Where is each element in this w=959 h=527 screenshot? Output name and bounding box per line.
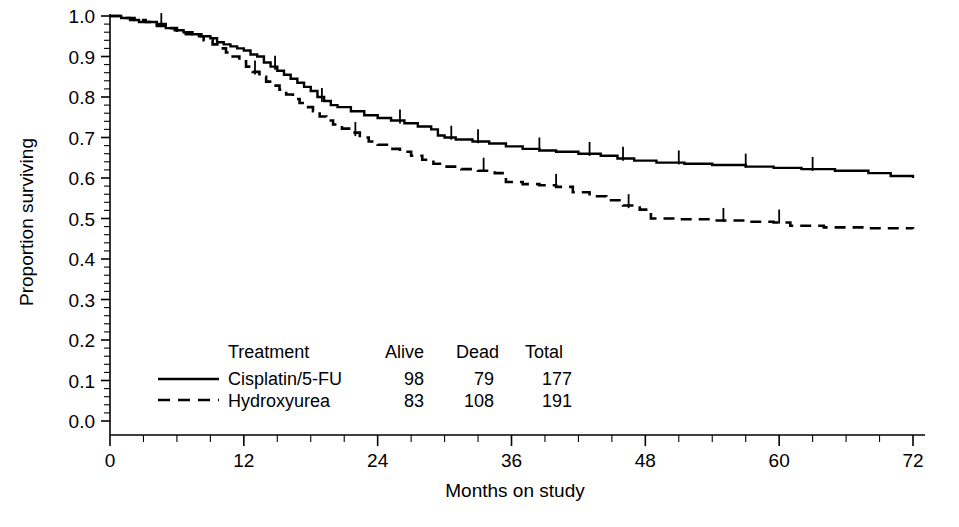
y-tick-label: 0.5 bbox=[69, 209, 95, 230]
x-tick-label: 24 bbox=[367, 450, 389, 471]
x-tick-label: 12 bbox=[233, 450, 254, 471]
y-axis-title: Proportion surviving bbox=[16, 138, 37, 306]
chart-background bbox=[0, 0, 959, 527]
x-tick-label: 72 bbox=[902, 450, 923, 471]
y-tick-label: 0.9 bbox=[69, 47, 95, 68]
legend-row-0-dead: 79 bbox=[474, 369, 494, 389]
y-tick-label: 0.7 bbox=[69, 128, 95, 149]
x-tick-label: 60 bbox=[769, 450, 790, 471]
y-tick-label: 0.2 bbox=[69, 330, 95, 351]
legend-row-0-alive: 98 bbox=[404, 369, 424, 389]
x-axis-title: Months on study bbox=[445, 480, 585, 501]
survival-plot-svg: 0.00.10.20.30.40.50.60.70.80.91.0 012243… bbox=[0, 0, 959, 527]
y-tick-label: 0.4 bbox=[69, 249, 96, 270]
legend-row-1-total: 191 bbox=[542, 391, 572, 411]
legend-header-treatment: Treatment bbox=[228, 342, 309, 362]
x-tick-label: 0 bbox=[105, 450, 116, 471]
legend-header-dead: Dead bbox=[456, 342, 499, 362]
legend-row-0-treatment: Cisplatin/5-FU bbox=[228, 369, 342, 389]
x-tick-label: 36 bbox=[501, 450, 522, 471]
kaplan-meier-chart: 0.00.10.20.30.40.50.60.70.80.91.0 012243… bbox=[0, 0, 959, 527]
legend-header-alive: Alive bbox=[385, 342, 424, 362]
legend-row-1-alive: 83 bbox=[404, 391, 424, 411]
legend-row-0-total: 177 bbox=[542, 369, 572, 389]
legend-header-total: Total bbox=[525, 342, 563, 362]
x-tick-label: 48 bbox=[635, 450, 656, 471]
legend-row-1-dead: 108 bbox=[464, 391, 494, 411]
y-tick-label: 0.3 bbox=[69, 290, 95, 311]
legend-row-1-treatment: Hydroxyurea bbox=[228, 391, 331, 411]
y-tick-label: 0.6 bbox=[69, 168, 95, 189]
y-tick-label: 0.0 bbox=[69, 411, 95, 432]
y-tick-label: 0.1 bbox=[69, 371, 95, 392]
y-tick-label: 1.0 bbox=[69, 6, 95, 27]
y-tick-label: 0.8 bbox=[69, 87, 95, 108]
